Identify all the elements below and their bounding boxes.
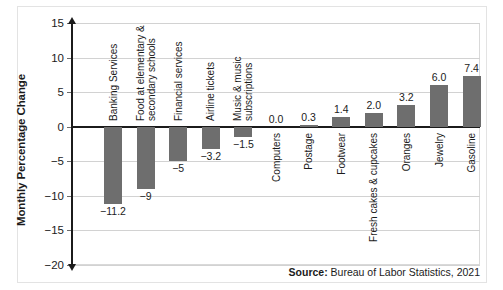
y-tick-label: −5: [51, 155, 64, 167]
source-text: Bureau of Labor Statistics, 2021: [331, 266, 480, 278]
category-label: Banking Services: [108, 43, 119, 120]
y-tick-label: 0: [58, 121, 64, 133]
gridline: [71, 58, 480, 59]
bar: [202, 127, 220, 149]
category-label: Postage: [303, 133, 314, 170]
source-prefix: Source:: [289, 266, 328, 278]
category-label: Fresh cakes & cupcakes: [368, 133, 379, 242]
bar-value-label: −1.5: [233, 138, 254, 150]
bar-value-label: 7.4: [464, 62, 479, 74]
bar-value-label: 0.3: [301, 111, 316, 123]
bar: [365, 113, 383, 127]
category-label: Airline tickets: [205, 62, 216, 121]
bar: [332, 117, 350, 127]
bar: [300, 125, 318, 127]
bar-value-label: −9: [140, 190, 152, 202]
gridline: [71, 196, 480, 197]
bar-value-label: −3.2: [200, 150, 221, 162]
bar-value-label: 3.2: [399, 91, 414, 103]
value-axis-line: [71, 23, 73, 265]
category-label: Footwear: [336, 133, 347, 175]
source-note: Source: Bureau of Labor Statistics, 2021: [289, 266, 480, 278]
category-label: Oranges: [401, 133, 412, 171]
bar: [430, 85, 448, 126]
bar: [234, 127, 252, 137]
plot-area: 151050−5−10−15−20 −11.2Banking Services−…: [71, 23, 480, 265]
axis-arrow-up-icon: [68, 17, 76, 24]
bar-value-label: 6.0: [432, 71, 447, 83]
bar-value-label: −11.2: [100, 205, 126, 217]
bar: [104, 127, 122, 204]
zero-axis-line: [71, 126, 480, 128]
bar: [397, 105, 415, 127]
bar-value-label: 2.0: [366, 99, 381, 111]
category-label: Food at elementary &secondary schools: [135, 25, 157, 121]
category-label: Jewelry: [434, 133, 445, 167]
y-tick-label: −20: [44, 259, 64, 271]
bar: [137, 127, 155, 189]
axis-arrow-down-icon: [68, 264, 76, 271]
y-axis-title: Monthly Percentage Change: [12, 55, 30, 245]
bar-value-label: −5: [172, 162, 184, 174]
gridline: [71, 230, 480, 231]
y-tick-label: 15: [51, 17, 64, 29]
bar-value-label: 0.0: [269, 113, 284, 125]
category-label: Computers: [271, 133, 282, 182]
y-tick-label: 10: [51, 52, 64, 64]
category-label: Gasoline: [466, 133, 477, 172]
category-label: Financial services: [173, 41, 184, 120]
chart-figure: Monthly Percentage Change 151050−5−10−15…: [17, 6, 487, 283]
bar: [169, 127, 187, 162]
y-tick-label: −10: [44, 190, 64, 202]
category-label: Music & musicsubscriptions: [232, 56, 254, 120]
y-tick-label: 5: [58, 86, 64, 98]
bar: [463, 76, 481, 127]
y-tick-label: −15: [44, 224, 64, 236]
gridline: [71, 92, 480, 93]
gridline: [71, 23, 480, 24]
bar-value-label: 1.4: [334, 103, 349, 115]
